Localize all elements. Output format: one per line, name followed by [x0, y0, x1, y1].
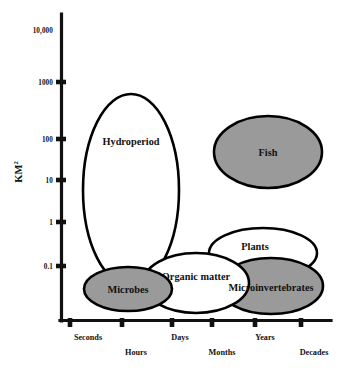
bubble-fish-label: Fish	[259, 147, 278, 158]
bubble-plants-label: Plants	[241, 241, 268, 252]
bubble-hydroperiod-shape	[83, 94, 179, 286]
bubble-hydroperiod-label: Hydroperiod	[102, 136, 159, 147]
bubble-microbes-label: Microbes	[108, 284, 149, 295]
y-tick-label-10: 10	[46, 177, 54, 185]
scale-bubble-chart: 10,000 1000 100 10 1 0.1 KM2 Seconds Hou…	[0, 0, 357, 370]
bubble-fish: Fish	[214, 116, 322, 188]
y-tick-label-1: 1	[49, 219, 53, 227]
y-tick-label-0-1: 0.1	[44, 263, 54, 271]
bubble-organic-matter-label: Organic matter	[162, 271, 231, 282]
chart-figure: 10,000 1000 100 10 1 0.1 KM2 Seconds Hou…	[0, 0, 357, 370]
x-tick-label-hours: Hours	[125, 348, 147, 357]
bubble-hydroperiod: Hydroperiod	[83, 94, 179, 286]
bubble-microbes: Microbes	[84, 267, 172, 311]
y-tick-label-100: 100	[42, 136, 53, 144]
x-tick-label-years: Years	[255, 333, 275, 342]
x-tick-label-seconds: Seconds	[74, 333, 102, 342]
x-tick-label-decades: Decades	[300, 348, 329, 357]
bubble-microinvertebrates-label: Microinvertebrates	[228, 282, 313, 293]
x-tick-label-days: Days	[171, 333, 188, 342]
x-tick-label-months: Months	[209, 348, 236, 357]
y-tick-label-1000: 1000	[38, 79, 53, 87]
y-axis-title-text: KM	[13, 165, 24, 183]
y-tick-label-10000: 10,000	[33, 27, 54, 35]
